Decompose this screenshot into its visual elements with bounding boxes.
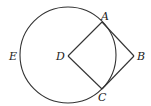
label-a: A: [100, 10, 109, 23]
geometry-diagram: A B C D E: [0, 0, 151, 106]
segment-da: [68, 22, 102, 56]
label-e: E: [8, 50, 17, 63]
segment-ab: [102, 22, 134, 56]
label-d: D: [55, 50, 65, 63]
label-b: B: [136, 50, 145, 63]
segment-bc: [102, 56, 134, 89]
segment-cd: [68, 56, 102, 89]
label-c: C: [98, 91, 107, 104]
